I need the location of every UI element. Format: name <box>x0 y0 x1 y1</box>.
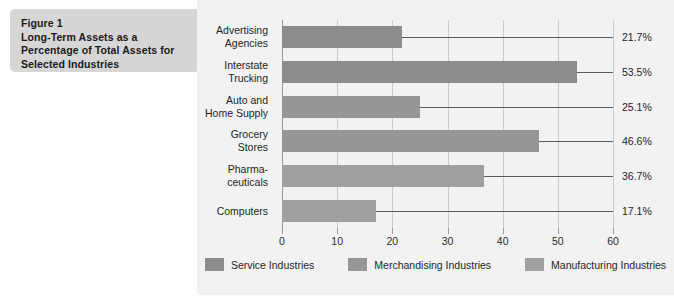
legend-label-service: Service Industries <box>231 259 314 271</box>
gridline-40 <box>503 20 504 228</box>
bar <box>282 130 539 152</box>
legend-item-manufacturing: Manufacturing Industries <box>525 258 666 271</box>
legend-swatch-service <box>205 258 224 271</box>
x-tick-label-50: 50 <box>538 235 578 247</box>
category-label: Auto and Home Supply <box>108 94 268 120</box>
category-label: Interstate Trucking <box>108 59 268 85</box>
x-tick-label-30: 30 <box>428 235 468 247</box>
bar-row: Computers17.1% <box>282 200 613 222</box>
gridline-30 <box>448 20 449 228</box>
gridline-50 <box>558 20 559 228</box>
bar-row: Grocery Stores46.6% <box>282 130 613 152</box>
x-tick-label-40: 40 <box>483 235 523 247</box>
value-label: 17.1% <box>622 205 652 217</box>
bar-row: Pharma- ceuticals36.7% <box>282 165 613 187</box>
value-leader-line <box>577 72 613 73</box>
value-label: 53.5% <box>622 66 652 78</box>
bar <box>282 61 577 83</box>
value-leader-line <box>539 141 613 142</box>
x-tick-label-60: 60 <box>593 235 633 247</box>
value-label: 36.7% <box>622 170 652 182</box>
x-tick-30 <box>448 228 449 234</box>
legend-label-manufacturing: Manufacturing Industries <box>551 259 666 271</box>
legend-item-merchandising: Merchandising Industries <box>348 258 491 271</box>
value-label: 21.7% <box>622 31 652 43</box>
bar-row: Interstate Trucking53.5% <box>282 61 613 83</box>
legend-item-service: Service Industries <box>205 258 314 271</box>
x-tick-label-0: 0 <box>262 235 302 247</box>
value-label: 25.1% <box>622 101 652 113</box>
category-label: Pharma- ceuticals <box>108 163 268 189</box>
bar-row: Auto and Home Supply25.1% <box>282 96 613 118</box>
category-label: Advertising Agencies <box>108 24 268 50</box>
x-tick-50 <box>558 228 559 234</box>
x-tick-20 <box>392 228 393 234</box>
figure-page: Figure 1 Long-Term Assets as a Percentag… <box>0 0 674 300</box>
x-tick-label-20: 20 <box>372 235 412 247</box>
plot-area: 0102030405060Advertising Agencies21.7%In… <box>282 20 613 228</box>
legend-swatch-manufacturing <box>525 258 544 271</box>
category-label: Grocery Stores <box>108 128 268 154</box>
value-leader-line <box>484 176 613 177</box>
bar <box>282 165 484 187</box>
bar <box>282 96 420 118</box>
x-tick-10 <box>337 228 338 234</box>
bar-row: Advertising Agencies21.7% <box>282 26 613 48</box>
x-tick-0 <box>282 228 283 234</box>
legend-swatch-merchandising <box>348 258 367 271</box>
x-tick-40 <box>503 228 504 234</box>
value-leader-line <box>420 107 613 108</box>
bar <box>282 26 402 48</box>
value-leader-line <box>402 37 613 38</box>
value-leader-line <box>376 211 613 212</box>
category-label: Computers <box>108 204 268 217</box>
chart-legend: Service IndustriesMerchandising Industri… <box>197 258 674 271</box>
gridline-0 <box>282 20 283 228</box>
x-tick-60 <box>613 228 614 234</box>
gridline-60 <box>613 20 614 228</box>
gridline-10 <box>337 20 338 228</box>
bar <box>282 200 376 222</box>
x-tick-label-10: 10 <box>317 235 357 247</box>
chart-panel: 0102030405060Advertising Agencies21.7%In… <box>197 0 674 295</box>
gridline-20 <box>392 20 393 228</box>
legend-label-merchandising: Merchandising Industries <box>374 259 491 271</box>
value-label: 46.6% <box>622 135 652 147</box>
